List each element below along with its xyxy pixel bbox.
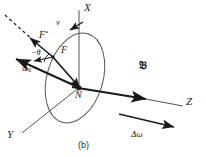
vector-label-F: F [61,45,67,55]
vector-label-omega-0-subscript: 0 [28,67,31,73]
y-axis-line [22,86,81,133]
node-label-N: N [75,90,82,100]
z-axis-line [140,98,183,106]
vector-label-F-star-superscript: * [45,29,49,37]
axis-label-y: Y [7,129,13,140]
vector-label-F-star: F* [39,30,49,40]
vector-junction-point [51,55,54,58]
vector-v-arrow [70,22,83,30]
axis-label-x: X [84,2,91,13]
figure-container: X Y Z v F* F −θ ω0 N 𝔅 Δω (b) [0,0,206,157]
axis-label-z: Z [186,96,192,107]
vector-diagram-svg [0,0,206,157]
vector-label-B: 𝔅 [139,60,147,71]
figure-caption: (b) [78,140,89,150]
vector-B-line [72,87,146,99]
vector-label-omega-0: ω0 [22,64,31,73]
dashed-guide-line [5,15,34,41]
vector-delta-omega-line [119,114,174,127]
vector-F-line [52,56,80,88]
vector-label-v: v [56,18,60,27]
angle-label-minus-theta: −θ [31,49,40,57]
rotating-disk-ellipse [35,26,114,130]
angle-marker-tick [34,57,53,61]
vector-label-delta-omega: Δω [131,130,143,139]
